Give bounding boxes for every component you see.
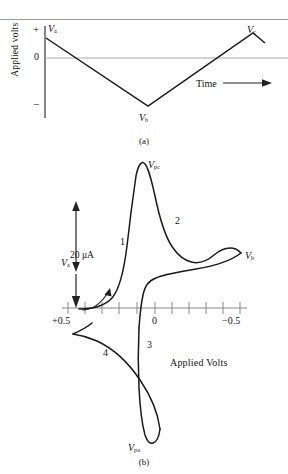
- panel-b-segment-label-4: 4: [103, 348, 108, 358]
- panel-b-xtick-minus-0-5: −0.5: [222, 316, 240, 326]
- current-scale-bar-label: 20 μA: [70, 251, 94, 261]
- panel-b-label-vpc: Vpc: [148, 160, 160, 171]
- panel-b-label-vb-sub: b: [251, 254, 254, 261]
- panel-b-segment-label-3: 3: [147, 340, 152, 350]
- panel-b-label-vpa: Vpa: [128, 443, 140, 454]
- panel-b-end-hook: [73, 323, 92, 334]
- panel-b-plot: [0, 152, 288, 472]
- time-arrow-head: [262, 79, 272, 86]
- panel-b-segment-label-1: 1: [120, 237, 125, 247]
- panel-a-caption: (a): [0, 137, 288, 146]
- panel-b-label-vb: Vb: [245, 251, 254, 262]
- panel-b-xtick-zero: 0: [152, 316, 157, 326]
- panel-b-caption: (b): [0, 458, 288, 467]
- panel-b-label-vpc-sub: pc: [154, 163, 160, 170]
- panel-b-xtick-plus-0-5: +0.5: [52, 316, 70, 326]
- current-scale-bar-arrow: [72, 201, 80, 272]
- panel-b-forward-scan-curve: [79, 163, 241, 309]
- panel-a-label-va: Va: [48, 24, 57, 35]
- figure-cyclic-voltammetry: Applied volts + 0 − Va Vb Vc Time (a): [0, 0, 288, 474]
- panel-b-label-va: Va: [61, 258, 70, 269]
- panel-a-tick-plus: +: [33, 24, 39, 35]
- panel-a-label-vc-sub: c: [253, 28, 256, 35]
- va-start-arrow: [72, 274, 80, 308]
- panel-a-x-axis-label: Time: [196, 79, 217, 89]
- panel-b-segment-label-2: 2: [175, 216, 180, 226]
- panel-b-label-vpa-sub: pa: [134, 446, 140, 453]
- panel-a-tick-zero: 0: [34, 52, 39, 62]
- panel-a-label-vb-sub: b: [145, 116, 148, 123]
- panel-a-label-vc: Vc: [247, 25, 256, 36]
- panel-b-x-axis-label: Applied Volts: [170, 358, 228, 368]
- panel-a-waveform: [46, 33, 265, 106]
- panel-a-label-vb: Vb: [139, 113, 148, 124]
- panel-b-label-va-sub: a: [67, 261, 70, 268]
- panel-a-tick-minus: −: [33, 99, 39, 110]
- panel-a-label-va-sub: a: [54, 27, 57, 34]
- panel-a-y-axis-label: Applied volts: [11, 15, 21, 85]
